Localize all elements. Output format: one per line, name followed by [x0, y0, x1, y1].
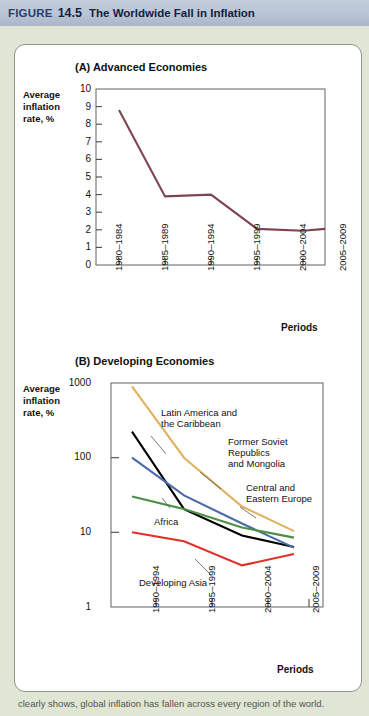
annotation-central-eastern-europe-line1: Central and: [246, 482, 295, 493]
annotation-former-soviet-line3: and Mongolia: [228, 458, 285, 469]
annotation-central-eastern-europe-line2: Eastern Europe: [246, 493, 312, 504]
caption-text: clearly shows, global inflation has fall…: [18, 700, 324, 709]
panel-b-xtick-2000-2004: 2000–2004: [262, 565, 273, 613]
figure-number: 14.5: [58, 6, 82, 20]
figure-word: FIGURE: [8, 7, 53, 19]
annotation-former-soviet: Former Soviet Republics and Mongolia: [228, 436, 288, 469]
figure-header: FIGURE 14.5 The Worldwide Fall in Inflat…: [0, 0, 369, 26]
annotation-latin-america: Latin America and the Caribbean: [161, 407, 237, 429]
annotation-former-soviet-line2: Republics: [228, 447, 270, 458]
annotation-africa: Africa: [154, 516, 178, 527]
annotation-latin-america-line2: the Caribbean: [161, 418, 221, 429]
annotation-former-soviet-line1: Former Soviet: [228, 436, 288, 447]
panel-b-plot: [15, 45, 363, 645]
figure-title: The Worldwide Fall in Inflation: [89, 7, 255, 19]
panel-b-xlabel: Periods: [277, 664, 314, 675]
figure-card: (A) Advanced Economies Average inflation…: [14, 44, 362, 692]
annotation-central-eastern-europe: Central and Eastern Europe: [246, 482, 312, 504]
annotation-latin-america-line1: Latin America and: [161, 407, 237, 418]
caption-strip: clearly shows, global inflation has fall…: [0, 700, 369, 716]
panel-b-xtick-1995-1999: 1995–1999: [206, 565, 217, 613]
panel-b-xtick-2005-2009: 2005–2009: [310, 565, 321, 613]
figure-page: FIGURE 14.5 The Worldwide Fall in Inflat…: [0, 0, 369, 716]
panel-b-xtick-1990-1994: 1990–1994: [150, 565, 161, 613]
